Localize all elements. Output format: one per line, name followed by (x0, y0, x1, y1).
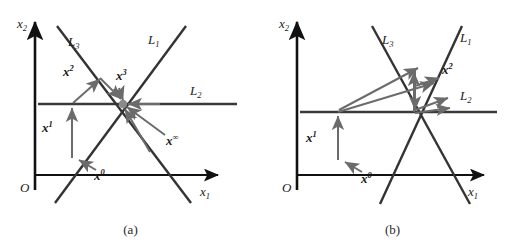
point-label-x1: x1 (305, 129, 317, 145)
panel-a-plot: x2 x1 O L3 L1 L2 x0 x1 x2 x3 x∞ (0, 0, 261, 210)
x-axis-label: x1 (199, 184, 210, 201)
line-label-L3: L3 (67, 34, 79, 51)
origin-label: O (20, 180, 30, 195)
x-axis-label: x1 (467, 184, 478, 201)
constraint-line-L1 (55, 26, 186, 203)
point-label-x3: x3 (115, 67, 128, 83)
panel-b: x2 x1 O L3 L1 L2 x0 x1 x2 (b) (262, 0, 523, 244)
constraint-line-L3 (57, 26, 191, 203)
line-label-L2: L2 (189, 83, 202, 100)
y-axis-label: x2 (278, 16, 290, 33)
figure-container: x2 x1 O L3 L1 L2 x0 x1 x2 x3 x∞ (a) (0, 0, 523, 244)
y-axis-label: x2 (16, 16, 28, 33)
arrow-x1-to-x2 (73, 79, 100, 103)
panel-a: x2 x1 O L3 L1 L2 x0 x1 x2 x3 x∞ (a) (0, 0, 261, 244)
convergence-point (119, 100, 127, 108)
arrow-x0-pointer (345, 162, 362, 172)
caption-a: (a) (0, 222, 261, 238)
point-label-xinf: x∞ (165, 132, 179, 148)
line-label-L3: L3 (381, 32, 393, 49)
caption-b: (b) (262, 222, 523, 238)
origin-label: O (282, 180, 292, 195)
panel-b-plot: x2 x1 O L3 L1 L2 x0 x1 x2 (262, 0, 523, 210)
point-label-x2: x2 (441, 61, 454, 77)
point-label-x0: x0 (360, 170, 373, 186)
line-label-L1: L1 (459, 30, 471, 47)
point-label-x2: x2 (62, 63, 75, 79)
constraint-line-L3 (372, 26, 470, 204)
line-label-L2: L2 (459, 88, 472, 105)
line-label-L1: L1 (147, 32, 159, 49)
point-label-x0: x0 (93, 167, 106, 183)
point-label-x1: x1 (41, 119, 53, 135)
